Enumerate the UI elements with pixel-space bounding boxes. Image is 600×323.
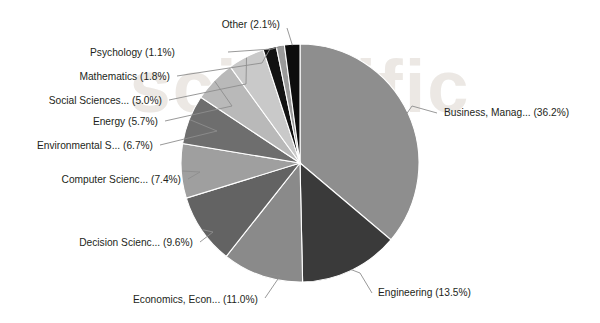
label-mathematics: Mathematics (1.8%) <box>79 71 170 82</box>
label-social-sciences: Social Sciences... (5.0%) <box>49 95 162 106</box>
label-energy: Energy (5.7%) <box>93 116 158 127</box>
label-computer-science: Computer Scienc... (7.4%) <box>62 174 181 185</box>
pie-chart-canvas: scientific Business, Manag... (36.2%)Eng… <box>0 0 600 323</box>
label-psychology: Psychology (1.1%) <box>90 47 175 58</box>
pie-slices-group <box>181 44 419 282</box>
label-environmental: Environmental S... (6.7%) <box>37 140 153 151</box>
label-decision-sciences: Decision Scienc... (9.6%) <box>79 237 193 248</box>
label-economics: Economics, Econ... (11.0%) <box>133 294 258 305</box>
label-other: Other (2.1%) <box>222 19 280 30</box>
label-engineering: Engineering (13.5%) <box>378 287 471 298</box>
label-business: Business, Manag... (36.2%) <box>444 107 569 118</box>
pie-chart-figure: scientific Business, Manag... (36.2%)Eng… <box>0 0 600 323</box>
